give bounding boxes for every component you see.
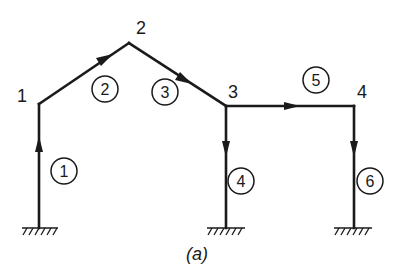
node-label-2: 2	[136, 18, 146, 38]
svg-text:3: 3	[161, 84, 170, 101]
arrow-down-icon	[350, 141, 358, 157]
member-tag-2: 2	[92, 76, 118, 102]
member-tag-4: 4	[228, 168, 254, 194]
arrow-right-icon	[284, 102, 300, 110]
member-tag-6: 6	[357, 168, 383, 194]
member-tag-1: 1	[51, 158, 77, 184]
member-tag-3: 3	[152, 79, 178, 105]
arrow-down-icon	[222, 141, 230, 157]
member-tag-5: 5	[303, 67, 329, 93]
node-label-3: 3	[228, 82, 238, 102]
node-label-4: 4	[357, 82, 367, 102]
figure-caption: (a)	[186, 244, 208, 264]
frame-diagram: 1 2 3 4 1 2 3 4 5 6 (a)	[0, 0, 420, 279]
svg-text:5: 5	[312, 72, 321, 89]
svg-text:2: 2	[101, 81, 110, 98]
arrow-up-icon	[35, 136, 43, 152]
svg-text:4: 4	[237, 173, 246, 190]
svg-text:6: 6	[366, 173, 375, 190]
node-label-1: 1	[17, 86, 27, 106]
svg-text:1: 1	[60, 163, 69, 180]
